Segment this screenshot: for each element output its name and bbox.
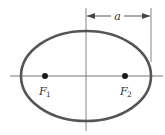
focus-1-point (42, 73, 48, 79)
semi-major-axis-label: a (114, 10, 121, 23)
focus-2-point (122, 73, 128, 79)
focus-1-subscript: 1 (46, 90, 51, 99)
ellipse-diagram: a F 1 F 2 (0, 0, 165, 135)
focus-2-subscript: 2 (127, 90, 132, 99)
